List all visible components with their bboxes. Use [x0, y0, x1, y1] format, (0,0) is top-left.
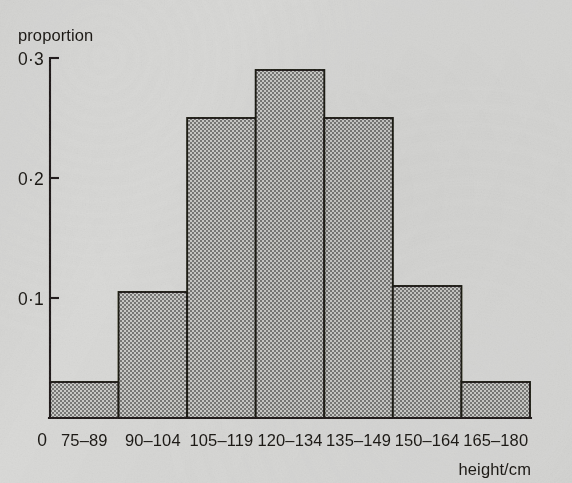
y-axis-title: proportion	[18, 26, 93, 44]
y-tick-label-0: 0	[37, 430, 47, 450]
bar-105-119[interactable]	[187, 118, 256, 418]
x-axis-title: height/cm	[459, 460, 531, 478]
x-tick-label-75-89: 75–89	[61, 431, 107, 449]
histogram-chart: proportion 0·3 0·2 0·1 0 75–89 90–104 10…	[0, 0, 572, 483]
y-tick-label-0.3: 0·3	[18, 49, 44, 69]
y-tick-label-0.2: 0·2	[18, 169, 44, 189]
histogram-figure: proportion 0·3 0·2 0·1 0 75–89 90–104 10…	[0, 0, 572, 483]
bar-90-104[interactable]	[119, 292, 188, 418]
x-tick-label-105-119: 105–119	[190, 431, 254, 449]
bar-75-89[interactable]	[50, 382, 119, 418]
bar-135-149[interactable]	[324, 118, 393, 418]
bar-150-164[interactable]	[393, 286, 462, 418]
x-tick-label-90-104: 90–104	[125, 431, 181, 449]
bar-120-134[interactable]	[256, 70, 325, 418]
x-tick-label-165-180: 165–180	[463, 431, 528, 449]
x-tick-label-120-134: 120–134	[258, 431, 323, 449]
x-tick-label-135-149: 135–149	[326, 431, 391, 449]
bar-165-180[interactable]	[461, 382, 530, 418]
bars-group	[50, 70, 530, 418]
x-tick-label-150-164: 150–164	[395, 431, 460, 449]
y-tick-label-0.1: 0·1	[18, 289, 44, 309]
